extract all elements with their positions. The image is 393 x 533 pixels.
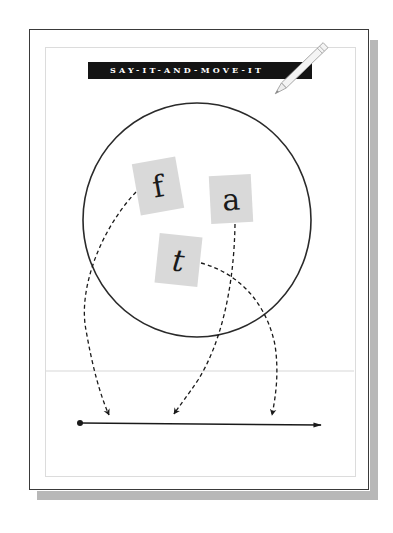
timeline-axis xyxy=(80,423,321,425)
letter-a: a xyxy=(221,181,241,217)
circle-outline xyxy=(83,103,311,337)
dashed-arrow-t xyxy=(201,263,277,415)
letter-tile-f[interactable]: f xyxy=(132,157,184,216)
letter-f: f xyxy=(149,168,166,204)
letter-tile-a[interactable]: a xyxy=(209,174,253,224)
letter-tile-t[interactable]: t xyxy=(155,233,203,287)
pencil-icon xyxy=(273,43,328,97)
dashed-arrow-f xyxy=(84,192,136,415)
letter-t: t xyxy=(171,242,187,278)
